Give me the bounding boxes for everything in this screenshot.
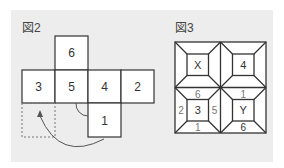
edge-label-br-bottom: 6 xyxy=(240,122,246,133)
edge-label-br-top: 1 xyxy=(240,89,246,100)
edge-label-bl-right: 5 xyxy=(212,105,218,116)
fold-angle-arc xyxy=(76,103,88,116)
tile-label-4: 4 xyxy=(240,59,246,71)
net-label-row-far-right: 2 xyxy=(134,80,141,94)
figure-canvas: 図2 6 3 5 4 2 1 図3 xyxy=(0,0,284,168)
tile-label-3: 3 xyxy=(195,104,201,116)
tile-label-y: Y xyxy=(240,104,248,116)
edge-label-bl-bottom: 1 xyxy=(195,122,201,133)
net-label-row-right: 4 xyxy=(101,80,108,94)
net-label-top: 6 xyxy=(68,46,75,60)
edge-label-bl-top: 6 xyxy=(195,89,201,100)
net-label-row-center: 5 xyxy=(68,80,75,94)
net-label-row-left: 3 xyxy=(35,80,42,94)
net-label-bottom: 1 xyxy=(101,114,108,128)
tile-diagram xyxy=(175,42,266,133)
edge-label-bl-left: 2 xyxy=(178,105,184,116)
dashed-target-cell xyxy=(22,103,55,137)
figure2-label: 図2 xyxy=(22,21,41,35)
figure3-label: 図3 xyxy=(175,21,194,35)
diagram-svg: 図2 6 3 5 4 2 1 図3 xyxy=(0,0,284,168)
tile-label-x: X xyxy=(194,59,202,71)
arrow-head-icon xyxy=(37,110,43,117)
